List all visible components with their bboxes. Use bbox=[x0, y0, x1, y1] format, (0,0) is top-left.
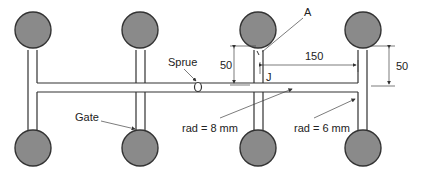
rad-secondary-label: rad = 6 mm bbox=[294, 122, 350, 134]
cavity-bottom-3 bbox=[240, 130, 276, 166]
sprue-label: Sprue bbox=[168, 56, 197, 68]
cavity-top-1 bbox=[15, 12, 51, 48]
rad-primary-leader-arrow bbox=[220, 89, 292, 118]
dimension-horizontal bbox=[260, 60, 358, 74]
secondary-runner-3 bbox=[254, 50, 263, 132]
dimension-vertical-left bbox=[230, 46, 256, 85]
cavity-top-3 bbox=[240, 12, 276, 48]
cavity-top-2 bbox=[122, 12, 158, 48]
cavity-bottom-1 bbox=[15, 130, 51, 166]
sprue-marker bbox=[195, 83, 202, 92]
cavity-top-4 bbox=[345, 12, 381, 48]
sprue-leader-arrow bbox=[184, 69, 196, 81]
point-a-label: A bbox=[304, 6, 312, 18]
secondary-runner-2 bbox=[136, 50, 145, 132]
point-a-marker bbox=[257, 51, 259, 55]
point-j-label: J bbox=[266, 71, 272, 83]
gate-label: Gate bbox=[75, 111, 99, 123]
cavity-bottom-2 bbox=[122, 130, 158, 166]
dim-vertical-right-label: 50 bbox=[396, 60, 408, 72]
gate-leader-arrow bbox=[101, 121, 135, 129]
rad-secondary-leader-arrow bbox=[314, 99, 355, 118]
cavity-bottom-4 bbox=[345, 130, 381, 166]
runner-layout-diagram: Sprue Gate A J 50 150 50 rad = 8 mm rad … bbox=[0, 0, 422, 175]
dim-horizontal-label: 150 bbox=[305, 50, 323, 62]
secondary-runner-1 bbox=[28, 50, 37, 132]
dimension-vertical-right bbox=[371, 46, 395, 86]
dim-vertical-left-label: 50 bbox=[220, 59, 232, 71]
secondary-runner-4 bbox=[358, 50, 367, 132]
rad-primary-label: rad = 8 mm bbox=[182, 122, 238, 134]
